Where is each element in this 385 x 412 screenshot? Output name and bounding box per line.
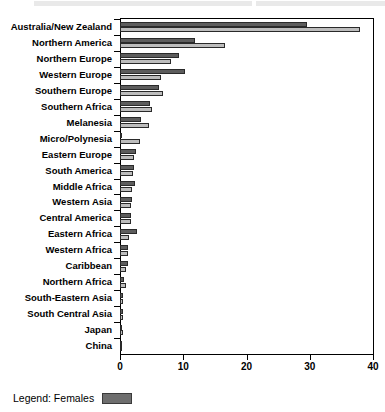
bar-group xyxy=(120,83,373,99)
y-tick xyxy=(114,83,120,84)
y-axis-label: Micro/Polynesia xyxy=(0,134,112,144)
bar-group xyxy=(120,147,373,163)
y-axis-label: China xyxy=(0,341,112,351)
y-tick xyxy=(114,290,120,291)
bar-females xyxy=(120,107,152,112)
bar-males xyxy=(120,261,128,266)
y-axis-label: Southern Europe xyxy=(0,86,112,96)
y-tick xyxy=(114,179,120,180)
y-tick xyxy=(114,147,120,148)
y-tick xyxy=(114,67,120,68)
window-top-strip xyxy=(0,0,385,7)
y-axis-label: Western Africa xyxy=(0,245,112,255)
y-tick xyxy=(114,163,120,164)
bar-females xyxy=(120,139,140,144)
y-tick xyxy=(114,338,120,339)
y-tick xyxy=(114,242,120,243)
bar-group xyxy=(120,179,373,195)
bar-group xyxy=(120,163,373,179)
y-tick xyxy=(114,306,120,307)
bar-group xyxy=(120,131,373,147)
y-axis-label: Middle Africa xyxy=(0,182,112,192)
y-tick xyxy=(114,322,120,323)
x-tick xyxy=(183,355,184,360)
bar-females xyxy=(120,155,134,160)
bar-males xyxy=(120,85,159,90)
top-strip-segment-left xyxy=(34,1,252,6)
y-axis-label: Western Asia xyxy=(0,197,112,207)
bar-group xyxy=(120,51,373,67)
bar-males xyxy=(120,245,128,250)
y-tick xyxy=(114,258,120,259)
y-axis-label: South Central Asia xyxy=(0,309,112,319)
bar-group xyxy=(120,338,373,354)
bar-males xyxy=(120,181,135,186)
x-axis-tick-label: 0 xyxy=(117,361,123,373)
bar-females xyxy=(120,43,225,48)
bar-group xyxy=(120,274,373,290)
bar-males xyxy=(120,38,195,43)
bar-group xyxy=(120,306,373,322)
y-axis-label: Northern Africa xyxy=(0,277,112,287)
x-axis-tick-label: 30 xyxy=(304,361,315,373)
bar-males xyxy=(120,149,136,154)
x-tick xyxy=(373,355,374,360)
bar-group xyxy=(120,322,373,338)
y-axis-labels: Australia/New ZealandNorthern AmericaNor… xyxy=(0,19,112,354)
bar-males xyxy=(120,117,141,122)
y-axis-label: Japan xyxy=(0,325,112,335)
bar-group xyxy=(120,226,373,242)
bar-group xyxy=(120,194,373,210)
bar-females xyxy=(120,187,132,192)
top-strip-segment-right xyxy=(256,1,385,6)
bar-females xyxy=(120,219,131,224)
y-axis-label: Eastern Europe xyxy=(0,150,112,160)
y-tick xyxy=(114,194,120,195)
bar-males xyxy=(120,101,150,106)
legend: Legend: Females xyxy=(13,392,132,404)
y-axis-label: South-Eastern Asia xyxy=(0,293,112,303)
y-tick xyxy=(114,210,120,211)
legend-label: Legend: Females xyxy=(13,392,94,404)
y-axis-label: Southern Africa xyxy=(0,102,112,112)
bar-group xyxy=(120,210,373,226)
y-axis-label: Melanesia xyxy=(0,118,112,128)
y-axis-label: Australia/New Zealand xyxy=(0,22,112,32)
bar-rows xyxy=(120,19,373,354)
y-axis-label: Central America xyxy=(0,213,112,223)
bar-chart: Australia/New ZealandNorthern AmericaNor… xyxy=(0,7,385,412)
bar-group xyxy=(120,115,373,131)
x-tick xyxy=(120,355,121,360)
x-axis-tick-labels: 010203040 xyxy=(0,361,385,375)
bar-females xyxy=(120,27,360,32)
bar-group xyxy=(120,258,373,274)
x-tick xyxy=(247,355,248,360)
y-axis-label: Western Europe xyxy=(0,70,112,80)
legend-swatch-females xyxy=(102,393,132,404)
bar-males xyxy=(120,69,185,74)
y-tick xyxy=(114,35,120,36)
bar-group xyxy=(120,67,373,83)
y-tick xyxy=(114,131,120,132)
bar-males xyxy=(120,229,137,234)
bar-females xyxy=(120,203,131,208)
bar-males xyxy=(120,213,131,218)
y-tick xyxy=(114,115,120,116)
y-tick xyxy=(114,19,120,20)
x-axis-tick-label: 10 xyxy=(178,361,189,373)
bar-group xyxy=(120,290,373,306)
bar-group xyxy=(120,99,373,115)
bar-females xyxy=(120,75,161,80)
bar-males xyxy=(120,165,134,170)
y-axis-label: Eastern Africa xyxy=(0,229,112,239)
y-axis-label: Caribbean xyxy=(0,261,112,271)
bar-group xyxy=(120,35,373,51)
bar-females xyxy=(120,235,129,240)
bar-females xyxy=(120,123,149,128)
y-axis-label: Northern America xyxy=(0,38,112,48)
y-axis-label: Northern Europe xyxy=(0,54,112,64)
y-tick xyxy=(114,274,120,275)
bar-males xyxy=(120,22,307,27)
bar-females xyxy=(120,251,128,256)
bar-females xyxy=(120,171,133,176)
